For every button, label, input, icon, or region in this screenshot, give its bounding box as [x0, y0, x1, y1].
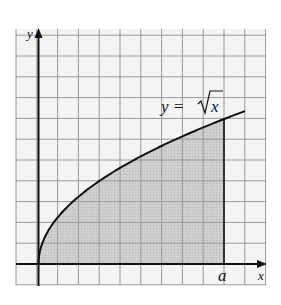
curve-label-prefix: y =	[159, 97, 184, 116]
area-under-curve-diagram: y x a y = x	[0, 0, 281, 305]
y-axis-label: y	[25, 26, 33, 41]
curve-label-radicand: x	[210, 97, 219, 116]
bound-label-a: a	[218, 266, 227, 285]
x-axis-label: x	[257, 268, 264, 283]
